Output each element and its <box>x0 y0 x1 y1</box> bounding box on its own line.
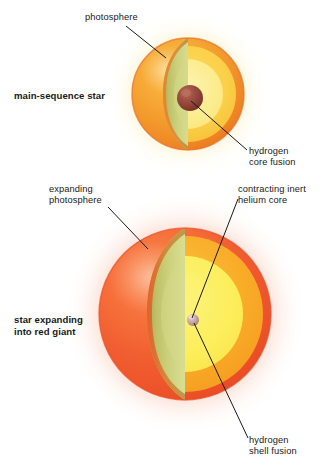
hydrogen-fusion-core-main-sequence <box>177 85 203 111</box>
core-highlight-main-sequence <box>181 89 191 97</box>
main-sequence-star-graphic <box>104 10 272 178</box>
label-hydrogen-core-fusion: hydrogen core fusion <box>249 146 296 169</box>
label-expanding-photosphere: expanding photosphere <box>49 184 102 207</box>
label-star-expanding-into-red-giant: star expanding into red giant <box>14 314 83 338</box>
stellar-evolution-diagram: photosphere main-sequence star hydrogen … <box>0 0 329 470</box>
red-giant-star-graphic <box>63 192 307 438</box>
label-photosphere: photosphere <box>85 12 138 23</box>
label-hydrogen-shell-fusion: hydrogen shell fusion <box>249 435 297 458</box>
label-main-sequence-star: main-sequence star <box>14 90 105 102</box>
label-contracting-inert-helium-core: contracting inert helium core <box>238 184 306 207</box>
diagram-canvas <box>0 0 329 470</box>
